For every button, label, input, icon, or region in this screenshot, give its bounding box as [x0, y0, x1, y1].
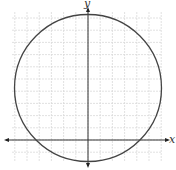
y-axis-bottom-arrow-icon	[86, 163, 90, 168]
coordinate-plane	[0, 0, 176, 170]
y-axis-label: y	[84, 0, 90, 9]
x-axis-left-arrow-icon	[4, 138, 9, 142]
x-axis-label: x	[169, 134, 175, 145]
